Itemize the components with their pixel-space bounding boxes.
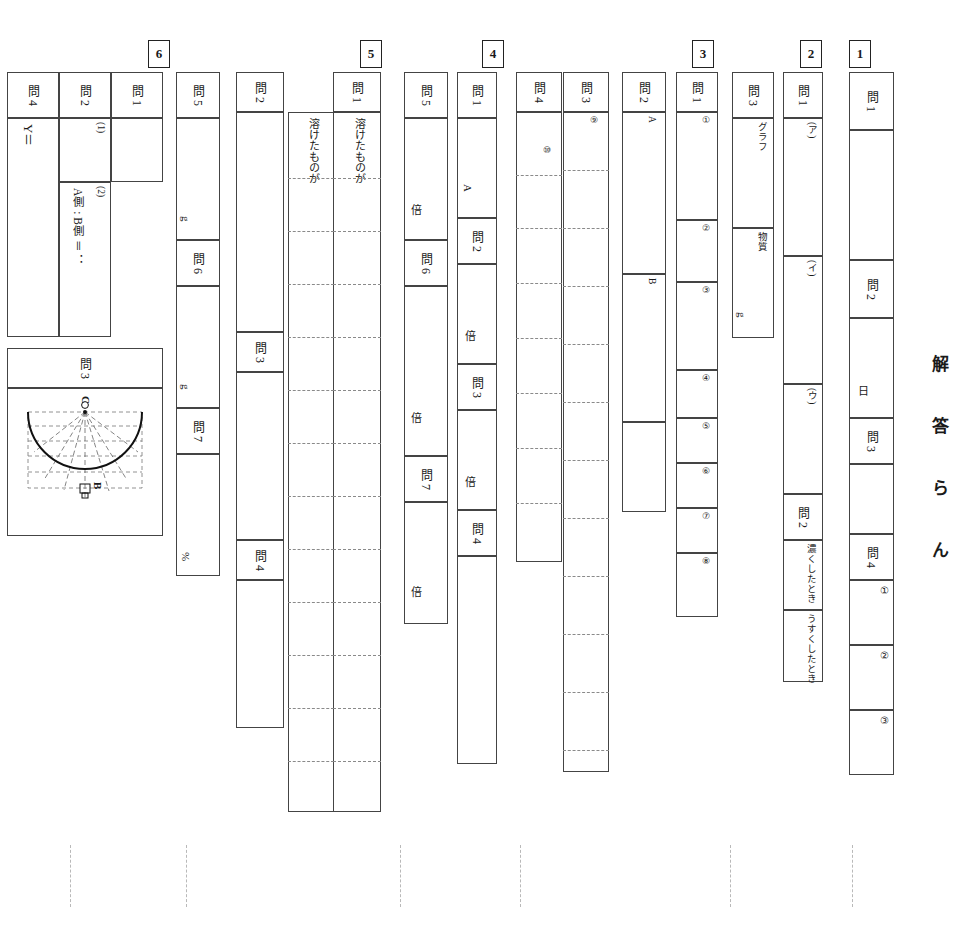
answer-cell-s3-q1-6[interactable] [676, 463, 718, 508]
answer-cell-s3-q1-5[interactable] [676, 418, 718, 463]
writing-guide [333, 284, 381, 285]
answer-cell-s1-q1[interactable] [849, 130, 894, 260]
answer-cell-s3-q1-8[interactable] [676, 553, 718, 617]
writing-guide [333, 549, 381, 550]
row-header-s2-q1: 問 1 [783, 72, 823, 118]
row-header-s5-q1: 問 1 [333, 72, 381, 112]
answer-cell-s1-q2[interactable] [849, 318, 894, 418]
row-header-s1-q4: 問 4 [849, 534, 894, 580]
unit-s5-q5: g [180, 216, 192, 222]
registration-mark [852, 845, 853, 907]
writing-guide [288, 284, 334, 285]
marker-s6-q2-2: (2) [95, 186, 105, 197]
answer-cell-s6-q4[interactable] [7, 118, 59, 337]
writing-guide [563, 518, 609, 519]
writing-guide [288, 602, 334, 603]
unit-s2-q3: g [736, 312, 748, 318]
marker-s1-q4-3: ③ [878, 715, 888, 726]
writing-guide [333, 337, 381, 338]
row-header-s5-q2: 問 2 [236, 72, 284, 112]
answer-cell-s3-q2-b[interactable] [622, 274, 666, 422]
row-header-s2-q3: 問 3 [732, 72, 774, 118]
answer-cell-s5-q1-col1[interactable] [333, 112, 381, 812]
row-header-s3-q2: 問 2 [622, 72, 666, 112]
row-header-s4-q1: 問 1 [457, 72, 497, 118]
marker-s2-q1-c: (ウ) [806, 388, 816, 404]
row-header-s2-q2: 問 2 [783, 494, 823, 540]
answer-cell-s3-q1-7[interactable] [676, 508, 718, 553]
section-number-3: 3 [692, 40, 714, 68]
answer-cell-s2-q1-a[interactable] [783, 118, 823, 256]
answer-cell-s6-q2-2[interactable] [59, 182, 111, 337]
writing-guide [288, 178, 334, 179]
marker-s3-q1-3: ③ [702, 286, 710, 295]
answer-cell-s2-q2-a[interactable] [783, 540, 823, 610]
answer-cell-s4-q6[interactable] [404, 286, 448, 456]
answer-cell-s4-q7[interactable] [404, 502, 448, 624]
writing-guide [563, 170, 609, 171]
unit-s4-q2: 倍 [462, 330, 478, 341]
unit-s4-q6: 倍 [408, 412, 424, 423]
answer-cell-s4-q1[interactable] [457, 118, 497, 218]
answer-cell-s3-q1-3[interactable] [676, 282, 718, 370]
writing-guide [516, 338, 562, 339]
answer-cell-s3-q1-1[interactable] [676, 112, 718, 220]
prompt-s5-q1-col2: 溶けたものが [308, 118, 319, 184]
answer-cell-s2-q3-substance[interactable] [732, 228, 774, 338]
answer-cell-s5-q1-col2[interactable] [288, 112, 334, 812]
writing-guide [288, 496, 334, 497]
answer-cell-s3-q3[interactable] [563, 112, 609, 772]
writing-guide [563, 344, 609, 345]
row-header-s1-q2: 問 2 [849, 260, 894, 318]
figure-label-b: B [92, 482, 104, 489]
writing-guide [516, 175, 562, 176]
marker-s3-q1-4: ④ [702, 374, 710, 383]
marker-s2-q1-b: (イ) [806, 260, 816, 276]
answer-cell-s3-q2-extra[interactable] [622, 422, 666, 512]
answer-cell-s5-q3[interactable] [236, 372, 284, 540]
marker-s1-q4-1: ① [878, 585, 888, 596]
answer-cell-s4-q4[interactable] [457, 556, 497, 764]
registration-mark [520, 845, 521, 907]
unit-s5-q7: % [180, 552, 192, 561]
section-number-6: 6 [148, 40, 170, 68]
unit-s6-q4: Y＝ [22, 124, 35, 146]
answer-cell-s2-q3-graph[interactable] [732, 118, 774, 228]
registration-mark [70, 845, 71, 907]
answer-cell-s5-q4[interactable] [236, 580, 284, 728]
answer-cell-s3-q1-4[interactable] [676, 370, 718, 418]
writing-guide [333, 602, 381, 603]
marker-s2-q3-graph: グラフ [756, 122, 766, 152]
answer-cell-s2-q1-c[interactable] [783, 384, 823, 494]
writing-guide [288, 761, 334, 762]
answer-cell-s6-q1[interactable] [111, 118, 163, 182]
writing-guide [288, 708, 334, 709]
marker-s3-q4: ⑩ [543, 146, 551, 155]
writing-guide [333, 443, 381, 444]
row-header-s4-q4: 問 4 [457, 510, 497, 556]
writing-guide [563, 750, 609, 751]
unit-s4-q1: A [462, 184, 474, 192]
writing-guide [333, 231, 381, 232]
answer-cell-s4-q3[interactable] [457, 410, 497, 510]
row-header-s3-q3: 問 3 [563, 72, 609, 112]
marker-s2-q3-substance: 物質 [756, 232, 766, 252]
answer-cell-s3-q2-a[interactable] [622, 112, 666, 274]
writing-guide [333, 496, 381, 497]
writing-guide [288, 390, 334, 391]
writing-guide [563, 692, 609, 693]
answer-cell-s4-q2[interactable] [457, 264, 497, 364]
answer-cell-s3-q4[interactable] [516, 112, 562, 562]
row-header-s5-q4: 問 4 [236, 540, 284, 580]
writing-guide [563, 576, 609, 577]
writing-guide [563, 460, 609, 461]
answer-cell-s3-q1-2[interactable] [676, 220, 718, 282]
answer-cell-s2-q1-b[interactable] [783, 256, 823, 384]
marker-s6-q2-1: (1) [95, 122, 105, 133]
writing-guide [333, 655, 381, 656]
answer-cell-s5-q2[interactable] [236, 112, 284, 332]
answer-cell-s2-q2-b[interactable] [783, 610, 823, 682]
registration-mark [400, 845, 401, 907]
answer-cell-s1-q3[interactable] [849, 464, 894, 534]
answer-cell-s4-q5[interactable] [404, 118, 448, 240]
